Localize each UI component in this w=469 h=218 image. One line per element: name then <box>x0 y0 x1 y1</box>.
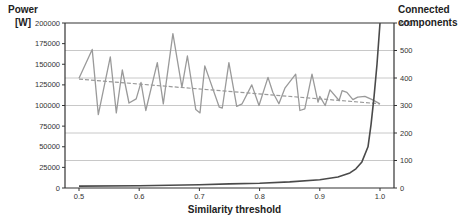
x-tick-label: 1.0 <box>375 192 385 201</box>
right-tick-label: 500 <box>400 46 413 55</box>
left-tick-label: 50000 <box>39 142 60 151</box>
x-tick-label: 0.9 <box>315 192 325 201</box>
series-power-trend <box>79 79 380 104</box>
chart-plot: 0250005000075000100000125000150000175000… <box>0 0 469 218</box>
series-power-w <box>79 34 380 115</box>
x-tick-label: 0.6 <box>134 192 144 201</box>
left-tick-label: 0 <box>56 184 60 193</box>
right-tick-label: 300 <box>400 101 413 110</box>
data-series <box>79 23 380 186</box>
series-connected-components <box>79 23 380 186</box>
right-tick-label: 400 <box>400 74 413 83</box>
x-tick-label: 0.5 <box>74 192 84 201</box>
left-tick-label: 200000 <box>35 19 60 28</box>
right-tick-label: 600 <box>400 19 413 28</box>
axes <box>62 23 397 191</box>
left-tick-label: 125000 <box>35 80 60 89</box>
left-tick-label: 75000 <box>39 122 60 131</box>
left-tick-label: 100000 <box>35 101 60 110</box>
right-tick-label: 200 <box>400 129 413 138</box>
left-tick-label: 175000 <box>35 39 60 48</box>
x-tick-label: 0.7 <box>194 192 204 201</box>
tick-labels: 0250005000075000100000125000150000175000… <box>35 19 413 202</box>
right-tick-label: 0 <box>400 184 404 193</box>
left-tick-label: 150000 <box>35 60 60 69</box>
x-tick-label: 0.8 <box>254 192 264 201</box>
left-tick-label: 25000 <box>39 163 60 172</box>
right-tick-label: 100 <box>400 156 413 165</box>
